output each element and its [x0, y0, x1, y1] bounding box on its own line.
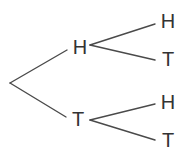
- edge-t-to-tt: [90, 120, 155, 140]
- edge-root-to-h: [10, 50, 67, 83]
- node-hh-level2: H: [161, 10, 175, 32]
- node-th-level2: H: [161, 91, 175, 113]
- node-t-level1: T: [72, 108, 84, 130]
- node-ht-level2: T: [162, 48, 174, 70]
- node-tt-level2: T: [162, 129, 174, 151]
- edge-h-to-ht: [90, 45, 155, 60]
- probability-tree-diagram: H T H T H T: [0, 0, 176, 159]
- edge-h-to-hh: [90, 24, 155, 45]
- edge-t-to-th: [90, 104, 155, 120]
- edge-root-to-t: [10, 83, 66, 117]
- node-h-level1: H: [73, 36, 87, 58]
